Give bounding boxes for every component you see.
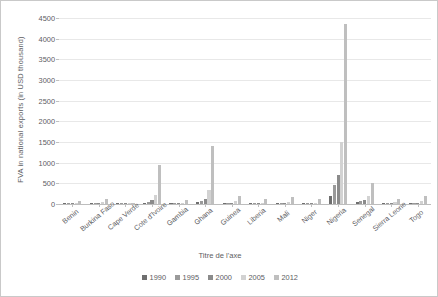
bar-group xyxy=(218,18,245,204)
y-axis-tick-label: 3500 xyxy=(39,55,55,64)
y-axis-tick-label: 1000 xyxy=(39,158,55,167)
bar-groups xyxy=(59,18,431,204)
bar-group xyxy=(245,18,272,204)
bar xyxy=(424,196,427,204)
bar xyxy=(94,203,97,204)
bar xyxy=(344,24,347,204)
x-axis-tick-label: Togo xyxy=(412,204,430,221)
bar xyxy=(359,201,362,204)
x-axis-tick-label: Mali xyxy=(280,205,296,220)
x-axis-tick-mark xyxy=(179,204,180,207)
bar-group xyxy=(139,18,166,204)
bar xyxy=(329,196,332,204)
bar xyxy=(276,203,279,204)
chart-legend: 19901995200020052012 xyxy=(1,273,438,282)
x-axis-title: Titre de l'axe xyxy=(1,251,438,260)
bar xyxy=(386,203,389,204)
legend-label: 1995 xyxy=(183,273,199,282)
legend-swatch-icon xyxy=(142,275,147,280)
bar xyxy=(412,203,415,204)
bar xyxy=(337,175,340,204)
legend-swatch-icon xyxy=(175,275,180,280)
bar xyxy=(356,202,359,204)
y-axis-tick-label: 500 xyxy=(43,179,55,188)
y-axis-title: FVA in national exports (in USD thousand… xyxy=(16,15,25,205)
bar-group xyxy=(59,18,86,204)
legend-item[interactable]: 2005 xyxy=(241,273,265,282)
bar-group xyxy=(298,18,325,204)
bar xyxy=(147,202,150,204)
bar xyxy=(382,203,385,204)
bar xyxy=(158,165,161,204)
x-axis-tick-mark xyxy=(99,204,100,207)
y-axis-tick-label: 3000 xyxy=(39,76,55,85)
legend-label: 2012 xyxy=(281,273,297,282)
x-axis-tick-label: Liberia xyxy=(250,202,272,223)
bar xyxy=(200,201,203,204)
bar xyxy=(302,203,305,204)
bar xyxy=(249,203,252,204)
y-axis-tick-mark xyxy=(56,204,59,205)
legend-swatch-icon xyxy=(241,275,246,280)
legend-item[interactable]: 2012 xyxy=(274,273,298,282)
bar xyxy=(67,203,70,204)
bar xyxy=(63,203,66,204)
x-axis-tick-mark xyxy=(232,204,233,207)
bar-group xyxy=(192,18,219,204)
bar-group xyxy=(86,18,113,204)
bar-group xyxy=(165,18,192,204)
bar xyxy=(120,203,123,204)
legend-item[interactable]: 1995 xyxy=(175,273,199,282)
legend-label: 1990 xyxy=(150,273,166,282)
y-axis-tick-label: 2500 xyxy=(39,96,55,105)
bar xyxy=(223,203,226,204)
chart-figure: FVA in national exports (in USD thousand… xyxy=(0,0,438,297)
bar-group xyxy=(272,18,299,204)
bar xyxy=(291,197,294,204)
x-axis-tick-label: Ghana xyxy=(197,202,219,223)
bar xyxy=(306,203,309,204)
y-axis-tick-label: 2000 xyxy=(39,117,55,126)
bar xyxy=(340,142,343,204)
bar-group xyxy=(325,18,352,204)
x-axis-tick-mark xyxy=(365,204,366,207)
legend-swatch-icon xyxy=(208,275,213,280)
bar xyxy=(90,203,93,204)
legend-label: 2000 xyxy=(216,273,232,282)
bar xyxy=(226,203,229,204)
y-axis-tick-label: 4000 xyxy=(39,34,55,43)
bar xyxy=(280,203,283,204)
x-axis-tick-mark xyxy=(418,204,419,207)
x-axis-tick-label: Niger xyxy=(305,203,324,221)
bar xyxy=(333,185,336,204)
legend-item[interactable]: 2000 xyxy=(208,273,232,282)
bar xyxy=(196,202,199,204)
y-axis-tick-label: 4500 xyxy=(39,14,55,23)
bar xyxy=(367,196,370,204)
y-axis-tick-label: 1500 xyxy=(39,138,55,147)
bar xyxy=(253,203,256,204)
bar-group xyxy=(378,18,405,204)
y-axis-tick-label: 0 xyxy=(51,200,55,209)
legend-swatch-icon xyxy=(274,275,279,280)
bar xyxy=(173,203,176,204)
plot-area: 050010001500200025003000350040004500 xyxy=(59,18,431,204)
bar xyxy=(154,195,157,205)
legend-item[interactable]: 1990 xyxy=(142,273,166,282)
bar xyxy=(211,146,214,204)
bar-group xyxy=(405,18,432,204)
bar-group xyxy=(351,18,378,204)
bar-group xyxy=(112,18,139,204)
legend-label: 2005 xyxy=(248,273,264,282)
bar xyxy=(207,190,210,204)
x-axis-tick-label: Benin xyxy=(65,203,85,222)
